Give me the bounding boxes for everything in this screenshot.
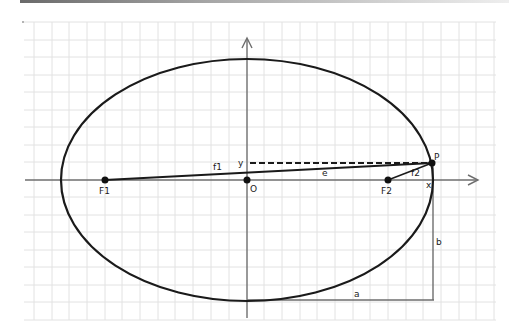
label-a: a (354, 289, 360, 299)
label-point-p: P (434, 152, 440, 162)
label-f1-focus: F1 (99, 186, 110, 196)
label-y-coord: y (238, 158, 244, 168)
label-f2-focus: F2 (381, 186, 392, 196)
ellipse-diagram: F1 O F2 P f1 f2 e y x a b (0, 0, 509, 332)
label-f1-distance: f1 (213, 162, 222, 172)
focus-f2-point (385, 177, 392, 184)
label-x-coord: x (426, 180, 432, 190)
origin-point (244, 177, 251, 184)
grid (24, 22, 496, 320)
stray-dot (22, 21, 24, 23)
label-origin: O (250, 184, 257, 194)
focus-f1-point (102, 177, 109, 184)
label-b: b (436, 237, 442, 247)
label-f2-distance: f2 (411, 168, 420, 178)
label-e: e (322, 168, 328, 178)
f1-segment (105, 163, 432, 180)
